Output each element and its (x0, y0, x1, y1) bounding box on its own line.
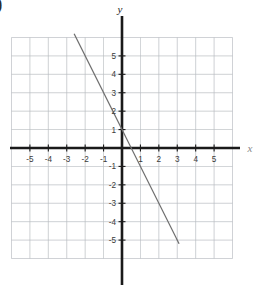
y-tick-label: 4 (111, 70, 116, 79)
y-tick-label: -3 (109, 199, 117, 208)
plotted-line (74, 34, 179, 244)
x-tick-label: 4 (193, 155, 198, 164)
y-tick-label: -2 (109, 181, 117, 190)
y-tick-label: -4 (109, 218, 117, 227)
x-tick-label: 1 (138, 155, 143, 164)
x-tick-label: -3 (63, 155, 71, 164)
y-axis-label: y (117, 3, 123, 15)
y-tick-label: 5 (111, 52, 116, 61)
graph-figure: ) -5-4-3-2-112345 54321-1-2-3-4-5 y x (0, 0, 254, 297)
y-tick-label: -1 (109, 162, 117, 171)
coordinate-plane: -5-4-3-2-112345 54321-1-2-3-4-5 y x (0, 0, 254, 297)
y-tick-label: -5 (109, 236, 117, 245)
x-axis-label: x (247, 142, 253, 154)
x-tick-label: 5 (212, 155, 217, 164)
y-tick-label: 2 (111, 107, 116, 116)
x-tick-label: 3 (175, 155, 180, 164)
x-tick-label: -2 (82, 155, 90, 164)
x-tick-label: -5 (26, 155, 34, 164)
y-tick-label: 1 (111, 126, 116, 135)
x-tick-label: 2 (157, 155, 162, 164)
x-tick-label: -1 (100, 155, 108, 164)
x-tick-label: -4 (45, 155, 53, 164)
y-tick-label: 3 (111, 89, 116, 98)
